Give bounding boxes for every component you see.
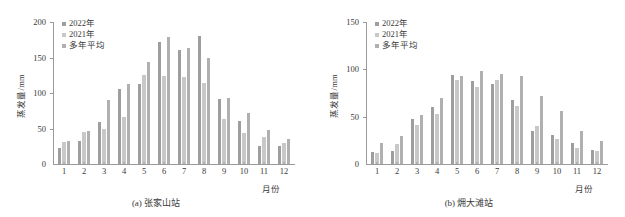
x-tick-mark xyxy=(144,162,145,164)
bar xyxy=(118,89,121,164)
y-tick-label: 0 xyxy=(22,159,46,169)
x-tick-label: 5 xyxy=(142,166,146,176)
x-tick-mark xyxy=(437,162,438,164)
bar xyxy=(591,150,594,164)
x-tick-mark xyxy=(64,162,65,164)
x-tick-label: 10 xyxy=(240,166,249,176)
x-tick-label: 3 xyxy=(102,166,106,176)
x-tick-label: 11 xyxy=(260,166,268,176)
x-tick-mark xyxy=(537,162,538,164)
bar xyxy=(471,81,474,164)
bar xyxy=(98,122,101,164)
bar-group: 10 xyxy=(547,22,567,164)
x-tick-mark xyxy=(557,162,558,164)
bar xyxy=(147,62,150,164)
x-tick-label: 6 xyxy=(162,166,166,176)
y-tick-label: 200 xyxy=(22,17,46,27)
y-tick-label: 100 xyxy=(335,64,359,74)
bar xyxy=(400,136,403,164)
bar xyxy=(258,146,261,164)
x-tick-mark xyxy=(104,162,105,164)
x-tick-mark xyxy=(457,162,458,164)
bar-group: 7 xyxy=(487,22,507,164)
bar-group: 3 xyxy=(407,22,427,164)
x-tick-mark xyxy=(224,162,225,164)
bar xyxy=(411,119,414,164)
bar xyxy=(62,142,65,164)
x-tick-label: 8 xyxy=(202,166,206,176)
bar xyxy=(511,100,514,164)
bar xyxy=(218,99,221,164)
bar-group: 9 xyxy=(214,22,234,164)
x-tick-mark xyxy=(377,162,378,164)
bar xyxy=(207,58,210,164)
y-tick-label: 150 xyxy=(335,17,359,27)
x-tick-mark xyxy=(164,162,165,164)
bar xyxy=(82,132,85,164)
bar xyxy=(551,135,554,164)
y-tick-label: 150 xyxy=(22,53,46,63)
bar xyxy=(202,83,205,164)
bar xyxy=(420,115,423,164)
bar xyxy=(162,76,165,164)
bar-group: 4 xyxy=(114,22,134,164)
x-tick-mark xyxy=(397,162,398,164)
y-tick-label: 50 xyxy=(335,112,359,122)
bar xyxy=(187,48,190,164)
bar xyxy=(560,111,563,164)
bar xyxy=(282,143,285,164)
x-tick-mark xyxy=(577,162,578,164)
bar xyxy=(371,152,374,164)
bar xyxy=(440,98,443,164)
bar xyxy=(415,125,418,164)
x-tick-label: 12 xyxy=(280,166,289,176)
y-tick-label: 0 xyxy=(335,159,359,169)
x-tick-label: 4 xyxy=(435,166,439,176)
bar xyxy=(540,96,543,164)
bar xyxy=(515,106,518,164)
bar xyxy=(580,131,583,164)
bar-group: 7 xyxy=(174,22,194,164)
x-tick-label: 10 xyxy=(553,166,562,176)
x-tick-label: 1 xyxy=(375,166,379,176)
bar-area-b: 123456789101112 xyxy=(367,22,607,164)
bar-group: 8 xyxy=(507,22,527,164)
x-tick-label: 2 xyxy=(82,166,86,176)
bar xyxy=(167,37,170,164)
x-tick-label: 4 xyxy=(122,166,126,176)
bar xyxy=(138,84,141,164)
bar xyxy=(600,141,603,164)
x-tick-label: 7 xyxy=(495,166,499,176)
bar xyxy=(87,131,90,164)
x-tick-label: 8 xyxy=(515,166,519,176)
bar xyxy=(435,114,438,164)
bar-group: 8 xyxy=(194,22,214,164)
bar-group: 11 xyxy=(254,22,274,164)
bar xyxy=(58,148,61,164)
bar-group: 4 xyxy=(427,22,447,164)
panel-caption-b: (b) 㶲大滩站 xyxy=(313,196,625,209)
bar xyxy=(158,42,161,164)
x-tick-mark xyxy=(264,162,265,164)
x-tick-mark xyxy=(84,162,85,164)
bar-group: 3 xyxy=(94,22,114,164)
x-tick-mark xyxy=(124,162,125,164)
bar xyxy=(531,131,534,164)
x-tick-label: 12 xyxy=(593,166,602,176)
bar xyxy=(500,74,503,164)
y-tick-label: 50 xyxy=(22,124,46,134)
x-tick-mark xyxy=(244,162,245,164)
bar-group: 5 xyxy=(134,22,154,164)
chart-panel-b: 蒸发量/mm 150 100 50 0 2022年 2021年 多年平均 xyxy=(313,0,625,217)
bar-group: 6 xyxy=(467,22,487,164)
bar xyxy=(535,126,538,164)
bar xyxy=(222,119,225,164)
x-tick-label: 5 xyxy=(455,166,459,176)
bar xyxy=(495,80,498,164)
bar xyxy=(520,76,523,164)
x-tick-label: 7 xyxy=(182,166,186,176)
x-tick-mark xyxy=(497,162,498,164)
x-tick-mark xyxy=(517,162,518,164)
x-tick-label: 2 xyxy=(395,166,399,176)
bar xyxy=(267,130,270,164)
